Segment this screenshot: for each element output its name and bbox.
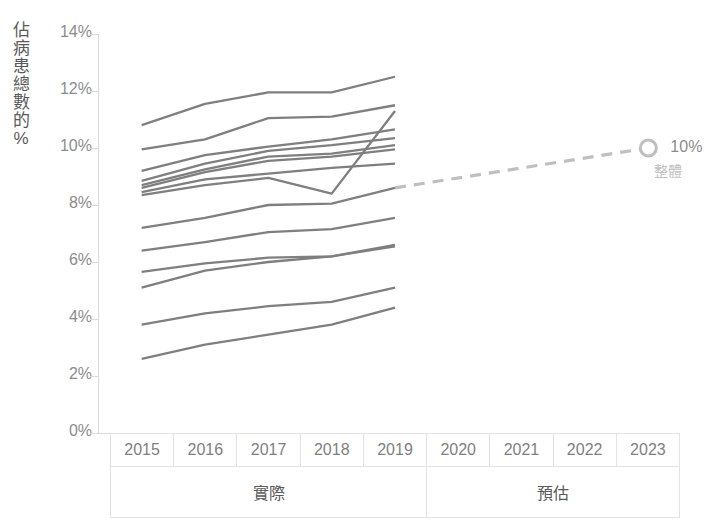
- annotation-label: 整體: [654, 160, 682, 180]
- y-axis-tick-mark: [90, 376, 98, 377]
- x-axis-year-cell: 2019: [363, 434, 426, 467]
- y-axis-tick-label: 12%: [46, 80, 92, 98]
- y-axis-tick-label: 10%: [46, 137, 92, 155]
- y-axis-tick-label: 14%: [46, 23, 92, 41]
- annotation-value: 10%: [670, 138, 702, 156]
- x-axis-year-cell: 2021: [490, 434, 553, 467]
- series-line: [142, 188, 395, 228]
- plot-area: [98, 20, 698, 440]
- x-axis-year-cell: 2023: [616, 434, 679, 467]
- y-axis-tick-label: 2%: [46, 365, 92, 383]
- y-axis-title-char: %: [8, 130, 34, 148]
- y-axis-tick-label: 8%: [46, 194, 92, 212]
- series-line: [142, 308, 395, 359]
- series-line: [142, 149, 395, 187]
- y-axis-tick-mark: [90, 205, 98, 206]
- x-axis-group-row: 實際預估: [111, 467, 680, 518]
- x-axis-year-cell: 2020: [427, 434, 490, 467]
- x-axis-year-cell: 2015: [111, 434, 174, 467]
- y-axis-title: 佔病患總數的%: [8, 22, 34, 148]
- y-axis-title-char: 佔: [8, 22, 34, 40]
- y-axis-tick-mark: [90, 319, 98, 320]
- y-axis-tick-mark: [90, 34, 98, 35]
- y-axis-title-char: 數: [8, 94, 34, 112]
- chart-canvas: 佔病患總數的% 0%2%4%6%8%10%12%14% 10% 整體 20152…: [0, 0, 721, 531]
- x-axis-group-cell: 預估: [427, 467, 680, 518]
- x-axis-year-cell: 2016: [174, 434, 237, 467]
- x-axis-year-cell: 2022: [553, 434, 616, 467]
- annotation-marker-icon: [640, 140, 656, 156]
- y-axis-tick-mark: [90, 148, 98, 149]
- y-axis-title-char: 總: [8, 76, 34, 94]
- y-axis-title-char: 的: [8, 112, 34, 130]
- series-line: [395, 148, 648, 188]
- y-axis-tick-label: 0%: [46, 422, 92, 440]
- x-axis-year-row: 201520162017201820192020202120222023: [111, 434, 680, 467]
- series-line: [142, 288, 395, 325]
- y-axis-tick-label: 6%: [46, 251, 92, 269]
- y-axis-tick-label: 4%: [46, 308, 92, 326]
- x-axis-year-cell: 2017: [237, 434, 300, 467]
- y-axis-title-char: 患: [8, 58, 34, 76]
- x-axis-group-cell: 實際: [111, 467, 427, 518]
- x-axis-table: 201520162017201820192020202120222023 實際預…: [110, 433, 680, 521]
- y-axis-tick-mark: [90, 433, 98, 434]
- y-axis-tick-mark: [90, 91, 98, 92]
- y-axis-tick-mark: [90, 262, 98, 263]
- series-line: [142, 245, 395, 272]
- x-axis-year-cell: 2018: [300, 434, 363, 467]
- series-lines: [98, 20, 698, 440]
- y-axis-title-char: 病: [8, 40, 34, 58]
